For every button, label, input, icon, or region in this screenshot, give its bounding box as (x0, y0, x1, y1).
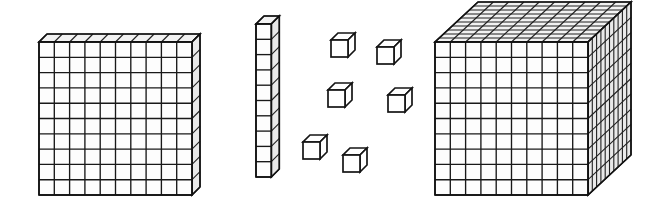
unit-cube[interactable] (388, 88, 412, 112)
unit-cube-front-face (303, 142, 320, 159)
front-face (256, 24, 271, 177)
unit-cube[interactable] (343, 148, 367, 172)
front-face (435, 42, 588, 195)
base-ten-blocks-scene (0, 0, 663, 215)
front-face (39, 42, 192, 195)
unit-cube[interactable] (328, 83, 352, 107)
tens-rod[interactable] (256, 16, 279, 177)
thousands-cube[interactable] (435, 2, 631, 195)
top-face (39, 34, 200, 42)
unit-cube-front-face (343, 155, 360, 172)
unit-cube[interactable] (303, 135, 327, 159)
unit-cube-front-face (328, 90, 345, 107)
unit-cube[interactable] (377, 40, 401, 64)
unit-cube-front-face (388, 95, 405, 112)
hundreds-flat[interactable] (39, 34, 200, 195)
unit-cube[interactable] (331, 33, 355, 57)
blocks-canvas (0, 0, 663, 215)
unit-cube-front-face (377, 47, 394, 64)
side-face (271, 16, 279, 177)
side-face (192, 34, 200, 195)
unit-cube-front-face (331, 40, 348, 57)
